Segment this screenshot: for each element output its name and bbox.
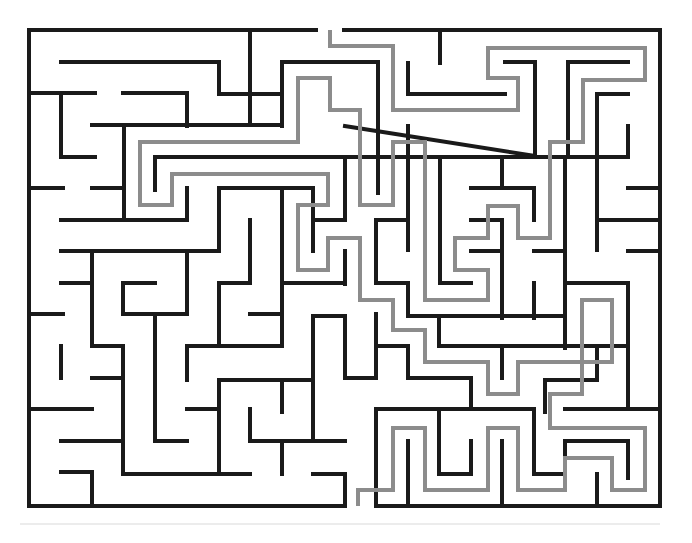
maze-walls [29,30,660,506]
maze-wall [313,474,345,506]
maze-wall [439,409,471,474]
maze-wall [61,93,95,157]
maze-wall [155,314,187,441]
maze-wall [187,188,219,251]
maze-wall [376,346,534,409]
maze-board [0,0,692,543]
maze-wall [250,409,345,441]
maze-wall [313,316,345,378]
maze-wall [92,251,123,346]
maze-wall [61,472,92,506]
maze-wall [439,316,628,346]
maze-wall [123,93,187,126]
maze-entrance[interactable] [316,22,344,38]
maze-exit[interactable] [344,498,376,514]
maze-wall [545,346,597,412]
maze-wall [187,283,282,380]
